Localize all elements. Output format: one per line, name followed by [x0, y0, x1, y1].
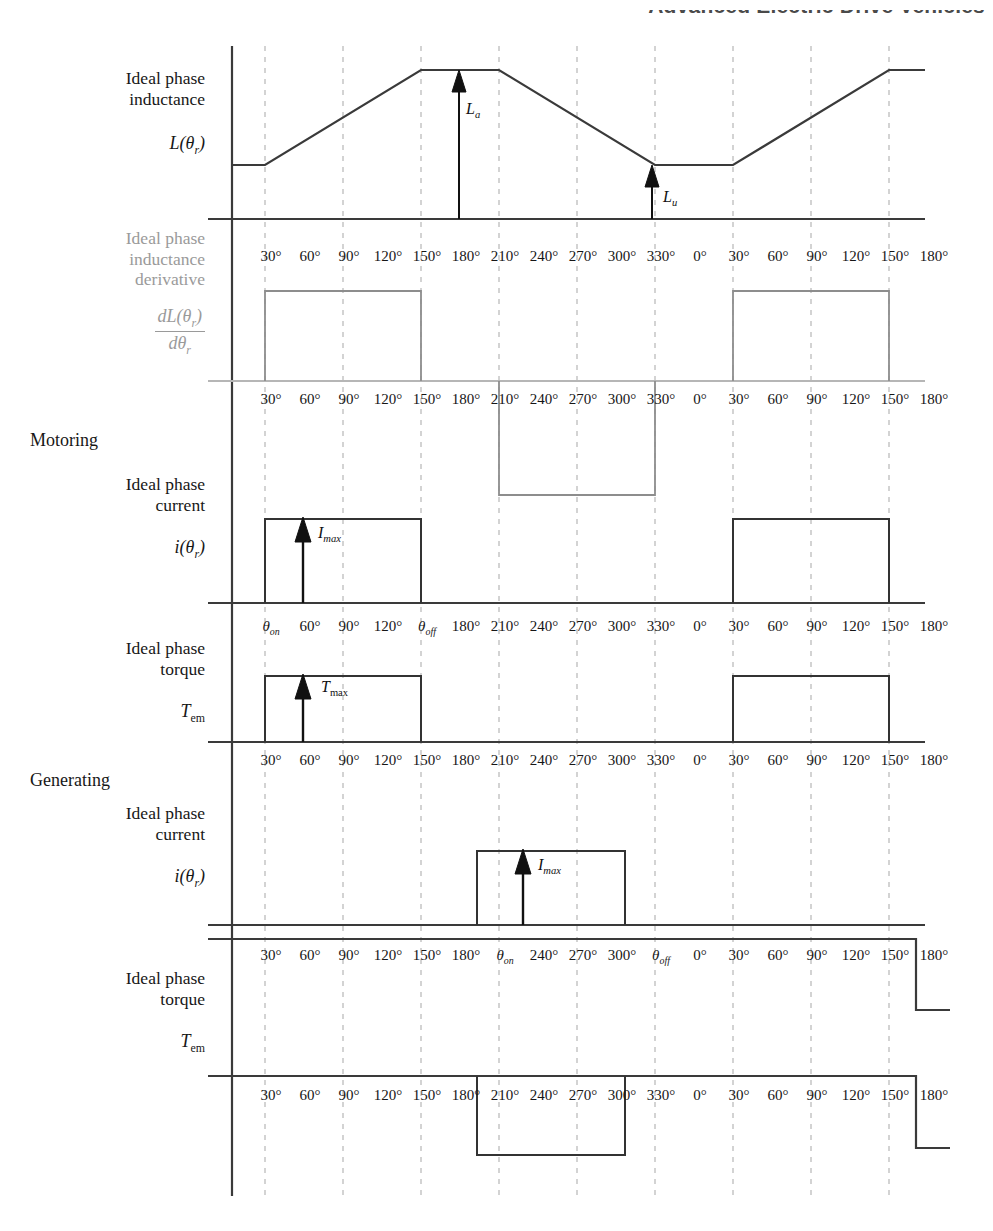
annotation-arrow-Lu [645, 165, 659, 219]
tick-label-180deg: 180° [920, 752, 949, 769]
tick-label-180deg: 180° [920, 391, 949, 408]
tick-label-60deg: 60° [300, 752, 321, 769]
section-label-generating: Generating [30, 770, 110, 791]
tick-label-90deg: 90° [807, 391, 828, 408]
tick-label-150deg: 150° [413, 391, 442, 408]
tick-label-90deg: 90° [339, 1087, 360, 1104]
tick-label-150deg: 150° [881, 248, 910, 265]
tick-label-90deg: 90° [339, 391, 360, 408]
tick-label-150deg: 150° [413, 947, 442, 964]
tick-label-240deg: 240° [530, 947, 559, 964]
tick-label-240deg: 240° [530, 752, 559, 769]
row-symbol-derivative: dL(θr) dθr [30, 306, 205, 356]
row-label-generating-current-line1: Ideal phase [126, 803, 205, 823]
tick-label-theta-on: θon [496, 947, 513, 966]
tick-label-150deg: 150° [881, 618, 910, 635]
tick-label-270deg: 270° [569, 391, 598, 408]
row-label-motoring-current-line1: Ideal phase [126, 474, 205, 494]
tick-label-30deg: 30° [729, 947, 750, 964]
row-label-motoring-current: Ideal phase current i(θr) [30, 474, 205, 561]
annotation-label-Lu: Lu [663, 188, 677, 208]
annotation-label-Imax-motoring: Imax [318, 524, 341, 544]
tick-label-150deg: 150° [413, 248, 442, 265]
tick-label-120deg: 120° [842, 752, 871, 769]
tick-label-120deg: 120° [842, 618, 871, 635]
tick-label-60deg: 60° [768, 947, 789, 964]
tick-label-330deg: 330° [647, 1087, 676, 1104]
tick-label-210deg: 210° [491, 391, 520, 408]
tick-label-30deg: 30° [729, 1087, 750, 1104]
annotation-arrow-Tmax [295, 674, 311, 742]
tick-label-30deg: 30° [729, 752, 750, 769]
tick-label-300deg: 300° [608, 752, 637, 769]
tick-label-240deg: 240° [530, 248, 559, 265]
tick-label-30deg: 30° [729, 248, 750, 265]
row-label-inductance-line1: Ideal phase [126, 68, 205, 88]
tick-label-30deg: 30° [261, 391, 282, 408]
annotation-label-Imax-generating: Imax [538, 856, 561, 876]
tick-label-180deg: 180° [920, 1087, 949, 1104]
tick-label-120deg: 120° [842, 947, 871, 964]
tick-label-120deg: 120° [374, 391, 403, 408]
tick-label-90deg: 90° [339, 248, 360, 265]
tick-label-180deg: 180° [452, 1087, 481, 1104]
tick-label-0deg: 0° [693, 248, 707, 265]
tick-label-theta-off: θoff [418, 618, 436, 637]
row-label-inductance-derivative: Ideal phase inductance derivative dL(θr)… [30, 228, 205, 356]
tick-label-180deg: 180° [452, 752, 481, 769]
tick-label-210deg: 210° [491, 752, 520, 769]
tick-label-300deg: 300° [608, 248, 637, 265]
tick-label-150deg: 150° [413, 752, 442, 769]
section-label-motoring: Motoring [30, 430, 98, 451]
tick-label-0deg: 0° [693, 1087, 707, 1104]
row-label-generating-torque-line1: Ideal phase [126, 968, 205, 988]
figure-page: Advanced Electric Drive Vehicles [0, 0, 993, 1231]
tick-label-30deg: 30° [729, 391, 750, 408]
row-symbol-generating-torque: Tem [30, 1031, 205, 1055]
annotation-label-La: La [466, 100, 480, 120]
tick-label-330deg: 330° [647, 752, 676, 769]
tick-label-240deg: 240° [530, 618, 559, 635]
tick-label-120deg: 120° [374, 947, 403, 964]
tick-label-120deg: 120° [842, 248, 871, 265]
tick-label-90deg: 90° [807, 1087, 828, 1104]
tick-label-60deg: 60° [300, 1087, 321, 1104]
tick-label-270deg: 270° [569, 947, 598, 964]
tick-label-300deg: 300° [608, 947, 637, 964]
tick-label-30deg: 30° [261, 1087, 282, 1104]
row-label-inductance-line2: inductance [129, 89, 205, 109]
tick-label-30deg: 30° [729, 618, 750, 635]
tick-label-180deg: 180° [452, 391, 481, 408]
annotation-arrow-La [452, 70, 466, 219]
row-label-motoring-current-line2: current [155, 495, 205, 515]
tick-label-theta-off: θoff [652, 947, 670, 966]
tick-label-210deg: 210° [491, 248, 520, 265]
row-label-generating-current-line2: current [155, 824, 205, 844]
tick-label-330deg: 330° [647, 618, 676, 635]
tick-label-0deg: 0° [693, 618, 707, 635]
annotation-label-Tmax: Tmax [321, 678, 348, 698]
row-symbol-generating-current: i(θr) [30, 866, 205, 890]
tick-label-180deg: 180° [920, 947, 949, 964]
row-symbol-motoring-current: i(θr) [30, 537, 205, 561]
row-label-inductance: Ideal phase inductance L(θr) [30, 68, 205, 157]
tick-label-60deg: 60° [300, 947, 321, 964]
row-label-generating-current: Ideal phase current i(θr) [30, 803, 205, 890]
tick-label-150deg: 150° [881, 752, 910, 769]
waveform-inductance [232, 70, 925, 165]
tick-label-270deg: 270° [569, 1087, 598, 1104]
tick-label-0deg: 0° [693, 947, 707, 964]
tick-label-180deg: 180° [920, 618, 949, 635]
tick-label-60deg: 60° [768, 248, 789, 265]
tick-label-90deg: 90° [339, 752, 360, 769]
tick-label-90deg: 90° [807, 947, 828, 964]
tick-label-60deg: 60° [768, 391, 789, 408]
tick-label-60deg: 60° [768, 752, 789, 769]
row-label-motoring-torque-line2: torque [160, 659, 205, 679]
tick-label-120deg: 120° [374, 248, 403, 265]
tick-label-120deg: 120° [842, 1087, 871, 1104]
tick-label-270deg: 270° [569, 248, 598, 265]
tick-label-180deg: 180° [452, 618, 481, 635]
tick-label-90deg: 90° [339, 947, 360, 964]
tick-label-120deg: 120° [374, 752, 403, 769]
